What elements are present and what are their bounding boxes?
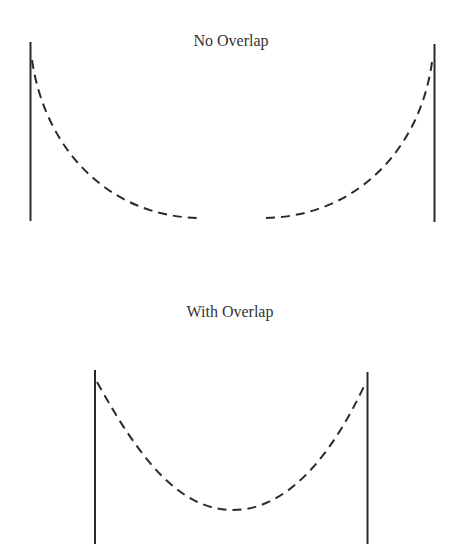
dashed-arc [97,382,366,510]
left-dashed-arc [32,60,202,218]
with-overlap-diagram [95,370,368,544]
right-dashed-arc [262,62,432,218]
no-overlap-diagram [31,42,435,222]
diagram-canvas [0,0,452,544]
